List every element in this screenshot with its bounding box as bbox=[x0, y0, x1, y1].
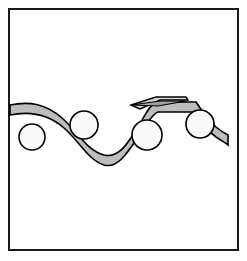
roller-3 bbox=[132, 120, 162, 150]
roller-2 bbox=[70, 111, 98, 139]
figure-root: Wavy sheet over rollers Line drawing of … bbox=[0, 0, 247, 261]
roller-1 bbox=[19, 124, 45, 150]
diagram-canvas bbox=[0, 0, 247, 261]
roller-4 bbox=[186, 110, 214, 138]
